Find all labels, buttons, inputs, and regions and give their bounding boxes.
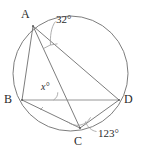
chord-ac [33,26,80,128]
angle-label-32: 32° [56,14,71,25]
vertex-dot-d [118,99,120,101]
circumcircle [13,16,128,131]
vertex-label-b: B [4,93,12,105]
angle-arc-c [67,117,90,125]
angle-arc-x [54,92,58,100]
vertex-dot-c [79,127,81,129]
chord-ab [22,26,33,100]
vertex-dot-b [21,99,23,101]
vertex-label-a: A [21,8,30,20]
vertex-label-c: C [74,135,82,147]
angle-label-x: x° [41,82,49,92]
vertex-label-d: D [124,93,133,105]
chord-cd [80,100,119,128]
circle-geometry-figure: A B C D 32° x° 123° [0,0,142,154]
vertex-dot-a [32,25,34,27]
angle-label-123: 123° [98,128,119,139]
